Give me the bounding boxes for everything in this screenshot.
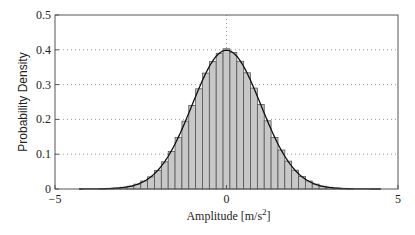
histogram-bar [209,62,216,189]
y-tick-label: 0.5 [36,8,51,22]
y-tick-label: 0.3 [36,78,51,92]
x-tick-label: 5 [395,192,401,206]
histogram-bar [189,105,196,189]
y-tick-label: 0.2 [36,112,51,126]
histogram-bar [251,88,258,189]
histogram-bar [182,121,189,189]
histogram-bar [168,151,175,189]
y-tick-label: 0.4 [36,43,51,57]
histogram-bar [216,53,223,189]
histogram-bar [223,49,230,189]
y-tick-label: 0 [45,182,51,196]
x-axis-label: Amplitude [m/s2] [186,207,270,223]
histogram-bar [161,162,168,189]
histogram-bars [100,49,354,189]
histogram-bar [257,104,264,189]
histogram-bar [278,150,285,189]
y-axis-label: Probability Density [16,52,30,151]
histogram-bar [196,89,203,189]
histogram-chart: −505 00.10.20.30.40.5 Amplitude [m/s2] P… [0,0,415,235]
histogram-bar [202,73,209,189]
y-axis-ticks: 00.10.20.30.40.5 [36,8,59,196]
histogram-bar [264,121,271,189]
histogram-bar [244,73,251,189]
histogram-bar [230,53,237,189]
x-tick-label: 0 [224,192,230,206]
y-tick-label: 0.1 [36,147,51,161]
histogram-bar [175,137,182,189]
histogram-bar [237,61,244,189]
histogram-bar [271,137,278,189]
